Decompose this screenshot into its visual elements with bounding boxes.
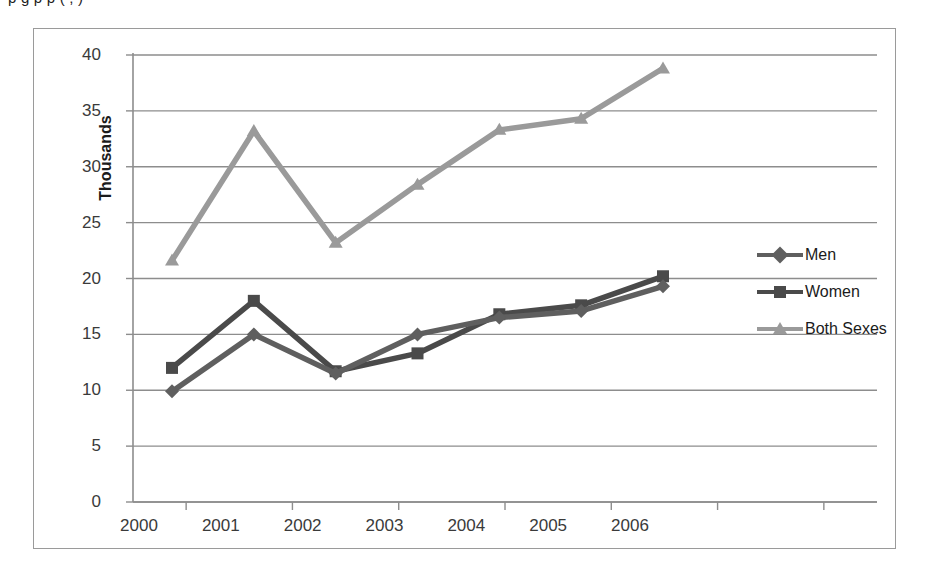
clipped-header-text-region: p g p p ( , ) [0, 0, 931, 16]
legend-diamond-marker-icon [772, 246, 789, 263]
legend-key-icon [757, 247, 803, 263]
y-axis-tick-label: 0 [55, 492, 101, 512]
x-axis-tick-label: 2006 [595, 516, 665, 536]
x-axis-tick-label: 2003 [350, 516, 420, 536]
y-axis-tick-label: 25 [55, 213, 101, 233]
legend-item-label: Women [805, 283, 860, 301]
legend-item-both-sexes[interactable]: Both Sexes [757, 310, 887, 347]
legend-square-marker-icon [774, 286, 786, 298]
legend-item-label: Men [805, 246, 836, 264]
legend-item-men[interactable]: Men [757, 236, 887, 273]
x-axis-tick-label: 2005 [513, 516, 583, 536]
legend-item-women[interactable]: Women [757, 273, 887, 310]
y-axis-tick-label: 40 [55, 45, 101, 65]
y-axis-tick-label: 35 [55, 101, 101, 121]
chart-legend: MenWomenBoth Sexes [757, 236, 887, 347]
legend-triangle-marker-icon [773, 322, 787, 334]
y-axis-tick-label: 15 [55, 324, 101, 344]
x-axis-tick-label: 2004 [431, 516, 501, 536]
legend-item-label: Both Sexes [805, 320, 887, 338]
legend-key-icon [757, 284, 803, 300]
x-axis-tick-label: 2001 [186, 516, 256, 536]
y-axis-tick-label: 5 [55, 436, 101, 456]
y-axis-tick-label: 10 [55, 380, 101, 400]
x-axis-tick-label: 2002 [268, 516, 338, 536]
y-axis-tick-label: 30 [55, 157, 101, 177]
y-axis-tick-label: 20 [55, 269, 101, 289]
y-axis-tick-labels: 4035302520151050 [55, 0, 101, 577]
x-axis-tick-label: 2000 [104, 516, 174, 536]
legend-key-icon [757, 321, 803, 337]
